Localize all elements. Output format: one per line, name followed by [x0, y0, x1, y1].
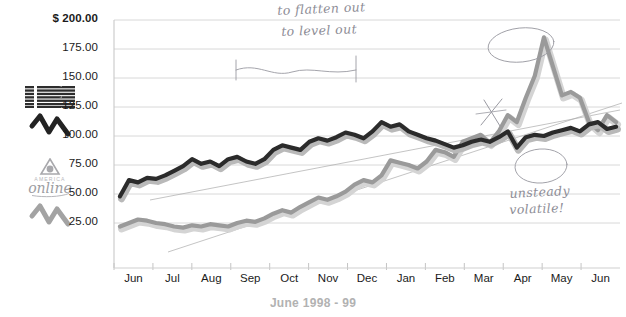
- dip-circle-annotation: [514, 147, 568, 185]
- y-axis-tick-label: 175.00: [22, 41, 98, 53]
- x-axis-tick-label: Apr: [503, 272, 543, 284]
- y-axis-tick-label: 75.00: [22, 157, 98, 169]
- y-axis-tick-label: 125.00: [22, 99, 98, 111]
- y-axis-tick-label: 150.00: [22, 70, 98, 82]
- x-axis-tick-label: Oct: [269, 272, 309, 284]
- wavy-underline: [236, 68, 356, 74]
- y-axis-tick-label: 50.00: [22, 186, 98, 198]
- chart-caption: June 1998 - 99: [0, 296, 626, 310]
- flatten-note-line2: to level out: [281, 21, 357, 39]
- x-axis-tick-label: Aug: [191, 272, 231, 284]
- cross-mark-annotation: [481, 99, 502, 126]
- x-axis-tick-label: Mar: [464, 272, 504, 284]
- peak-circle-annotation: [486, 25, 555, 66]
- x-axis-tick-label: Jul: [152, 272, 192, 284]
- y-axis-tick-label: $ 200.00: [22, 12, 98, 24]
- x-axis-tick-label: Sep: [230, 272, 270, 284]
- x-axis-tick-label: Jun: [113, 272, 153, 284]
- volatile-note-line1: unsteady: [509, 183, 570, 201]
- volatile-note-line2: volatile!: [509, 200, 565, 217]
- y-axis-tick-label: 100.00: [22, 128, 98, 140]
- stock-chart-image: AMERICA online: [0, 0, 626, 317]
- x-axis-tick-label: Nov: [308, 272, 348, 284]
- y-axis-tick-label: 25.00: [22, 215, 98, 227]
- x-axis-tick-label: Feb: [425, 272, 465, 284]
- x-axis-tick-label: Jan: [386, 272, 426, 284]
- x-axis-tick-label: Dec: [347, 272, 387, 284]
- x-axis-tick-label: Jun: [581, 272, 621, 284]
- x-axis-tick-label: May: [542, 272, 582, 284]
